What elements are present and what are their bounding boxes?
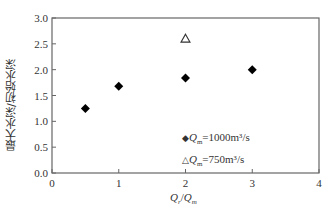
y-tick-label: 0.5	[34, 141, 48, 153]
x-tick-label: 2	[183, 177, 189, 189]
legend-item-1000: ◆Qm=1000m³/s	[182, 129, 250, 151]
y-tick-label: 1.0	[34, 115, 48, 127]
triangle-marker-icon: △	[182, 155, 189, 165]
diamond-data-point	[114, 82, 123, 91]
y-tick-label: 3.0	[34, 12, 48, 24]
y-tick-label: 0.0	[34, 167, 48, 179]
legend: ◆Qm=1000m³/s △Qm=750m³/s	[182, 129, 250, 173]
y-tick-label: 2.0	[34, 64, 48, 76]
diamond-data-point	[181, 73, 190, 82]
x-tick-label: 4	[316, 177, 322, 189]
diamond-data-point	[248, 65, 257, 74]
diamond-marker-icon: ◆	[182, 133, 189, 143]
scatter-chart: 0.00.51.01.52.02.53.001234	[0, 0, 334, 213]
y-tick-label: 2.5	[34, 38, 48, 50]
x-tick-label: 0	[49, 177, 55, 189]
triangle-data-point	[181, 34, 190, 42]
y-axis-label: 最大水深/初始水深	[4, 50, 20, 160]
x-axis-label: Qr/Qm	[170, 191, 197, 206]
x-tick-label: 3	[250, 177, 256, 189]
x-tick-label: 1	[116, 177, 122, 189]
diamond-data-point	[81, 104, 90, 113]
y-tick-label: 1.5	[34, 90, 48, 102]
legend-item-750: △Qm=750m³/s	[182, 151, 250, 173]
